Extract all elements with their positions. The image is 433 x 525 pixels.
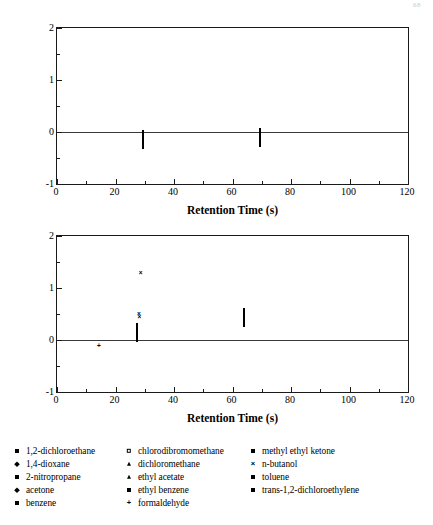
x-axis-tick-label: 0 [54,186,59,197]
x-axis-minor-tick [86,389,87,392]
x-axis-tick-label: 0 [54,394,59,405]
legend-item-label: ethyl benzene [138,485,189,495]
zero-reference-line [57,340,408,341]
y-axis-minor-tick [57,54,60,55]
y-axis-tick-label: 0 [40,334,54,345]
square-filled-icon [248,472,258,482]
x-axis-minor-tick [145,181,146,184]
plot-area-m200-2: +××× [56,235,409,393]
square-filled-icon [12,472,22,482]
x-axis-minor-tick [86,181,87,184]
chart-panel-m200-3: Errors for M200 #3 (s) Retention Time (s… [0,14,433,219]
x-axis-tick [233,179,234,184]
x-axis-minor-tick [262,181,263,184]
legend-item-label: 2-nitropropane [26,472,81,482]
y-axis-tick [57,288,62,289]
y-axis-tick-label: -1 [40,386,54,397]
x-axis-tick-label: 20 [110,186,120,197]
y-axis-tick [57,132,62,133]
legend-item: ethyl acetate [124,470,248,483]
y-axis-tick [57,184,62,185]
legend-item: +formaldehyde [124,497,248,510]
legend-item: 1,2-dichloroethane [12,444,124,457]
legend-item-label: formaldehyde [138,498,189,508]
legend-item: 1,4-dioxane [12,457,124,470]
square-filled-icon [124,485,134,495]
y-axis-tick [57,236,62,237]
square-filled-icon [12,446,22,456]
legend-item-label: trans-1,2-dichloroethylene [262,485,359,495]
legend-item: ×n-butanol [248,457,428,470]
legend-item: dichloromethane [124,457,248,470]
legend-item-label: 1,4-dioxane [26,459,70,469]
chart-panel-m200-2: Errors for M200 #2 (s) +××× Retention Ti… [0,222,433,427]
data-point: × [138,313,142,318]
legend-item-label: ethyl acetate [138,472,184,482]
figure-page: 68 Errors for M200 #3 (s) Retention Time… [0,0,433,525]
legend-item: chlorodibromomethane [124,444,248,457]
y-axis-tick [57,80,62,81]
plus-icon: + [124,498,134,508]
x-axis-minor-tick [145,389,146,392]
legend-item-label: acetone [26,485,54,495]
y-axis-tick-label: 1 [40,74,54,85]
x-axis-tick [57,179,58,184]
square-filled-icon [248,446,258,456]
diamond-filled-icon [12,485,22,495]
legend-item: methyl ethyl ketone [248,444,428,457]
triangle-filled-icon [124,459,134,469]
x-axis-tick [408,387,409,392]
x-axis-tick-label: 60 [227,394,237,405]
x-axis-minor-tick [379,181,380,184]
x-axis-tick [408,179,409,184]
x-axis-minor-tick [203,181,204,184]
legend-column-3: methyl ethyl ketone×n-butanoltoluenetran… [248,444,428,497]
x-axis-minor-tick [262,389,263,392]
x-axis-minor-tick [379,389,380,392]
y-axis-tick [57,340,62,341]
legend-item: toluene [248,470,428,483]
legend-item: acetone [12,484,124,497]
x-axis-tick-label: 120 [400,394,415,405]
square-open-icon [124,446,134,456]
y-axis-tick-label: 1 [40,282,54,293]
x-axis-tick-label: 80 [285,186,295,197]
legend-item-label: toluene [262,472,289,482]
legend-item-label: 1,2-dichloroethane [26,446,95,456]
cross-icon: × [248,459,258,469]
legend: 1,2-dichloroethane1,4-dioxane2-nitroprop… [0,444,433,518]
x-axis-label-bottom: Retention Time (s) [56,412,409,424]
x-axis-tick [116,179,117,184]
y-axis-tick-label: 2 [40,22,54,33]
square-filled-icon [12,498,22,508]
square-filled-icon [248,485,258,495]
page-number: 68 [413,1,421,9]
x-axis-tick-label: 120 [400,186,415,197]
y-axis-minor-tick [57,158,60,159]
legend-column-1: 1,2-dichloroethane1,4-dioxane2-nitroprop… [12,444,124,510]
x-axis-tick-label: 100 [341,186,356,197]
y-axis-minor-tick [57,314,60,315]
x-axis-tick [233,387,234,392]
x-axis-tick [174,387,175,392]
x-axis-tick [350,387,351,392]
plot-area-m200-3 [56,27,409,185]
x-axis-tick-label: 40 [168,186,178,197]
legend-item-label: methyl ethyl ketone [262,446,335,456]
x-axis-tick-label: 20 [110,394,120,405]
zero-reference-line [57,132,408,133]
data-point: × [137,311,141,316]
x-axis-tick [57,387,58,392]
x-axis-tick [116,387,117,392]
legend-item-label: dichloromethane [138,459,200,469]
x-axis-tick [174,179,175,184]
x-axis-minor-tick [320,389,321,392]
x-axis-minor-tick [203,389,204,392]
data-point: × [139,269,143,274]
x-axis-tick-label: 40 [168,394,178,405]
legend-item: ethyl benzene [124,484,248,497]
legend-item: benzene [12,497,124,510]
x-axis-tick [291,179,292,184]
legend-item: 2-nitropropane [12,470,124,483]
data-point: + [97,343,101,348]
